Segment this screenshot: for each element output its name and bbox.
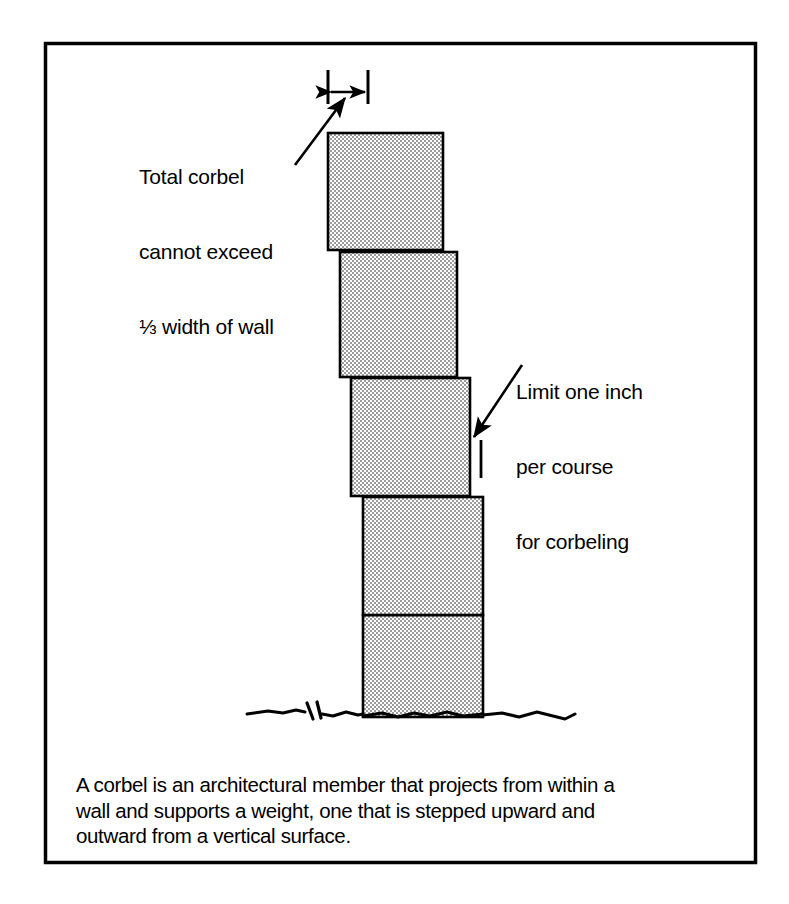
course-top — [328, 133, 443, 250]
corbel-figure: Total corbel cannot exceed ⅓ width of wa… — [0, 0, 789, 904]
course-fourth — [363, 497, 483, 615]
course-third — [351, 378, 470, 496]
course-second — [340, 252, 457, 377]
limit-one-inch-note-line-1: Limit one inch — [516, 379, 643, 404]
figure-caption: A corbel is an architectural member that… — [76, 772, 726, 849]
limit-one-inch-note-line-3: for corbeling — [516, 529, 643, 554]
limit-one-inch-leader-arrow — [474, 365, 522, 437]
total-corbel-note-line-3: ⅓ width of wall — [139, 314, 274, 339]
course-base — [363, 615, 483, 717]
total-corbel-note: Total corbel cannot exceed ⅓ width of wa… — [139, 114, 274, 389]
figure-canvas — [0, 0, 789, 904]
total-corbel-note-line-2: cannot exceed — [139, 239, 274, 264]
total-corbel-note-line-1: Total corbel — [139, 164, 274, 189]
corbel-total-width-dimension — [328, 70, 368, 104]
caption-line-2: wall and supports a weight, one that is … — [76, 798, 726, 824]
caption-line-1: A corbel is an architectural member that… — [76, 772, 726, 798]
limit-one-inch-note: Limit one inch per course for corbeling — [516, 329, 643, 604]
limit-one-inch-note-line-2: per course — [516, 454, 643, 479]
caption-line-3: outward from a vertical surface. — [76, 823, 726, 849]
